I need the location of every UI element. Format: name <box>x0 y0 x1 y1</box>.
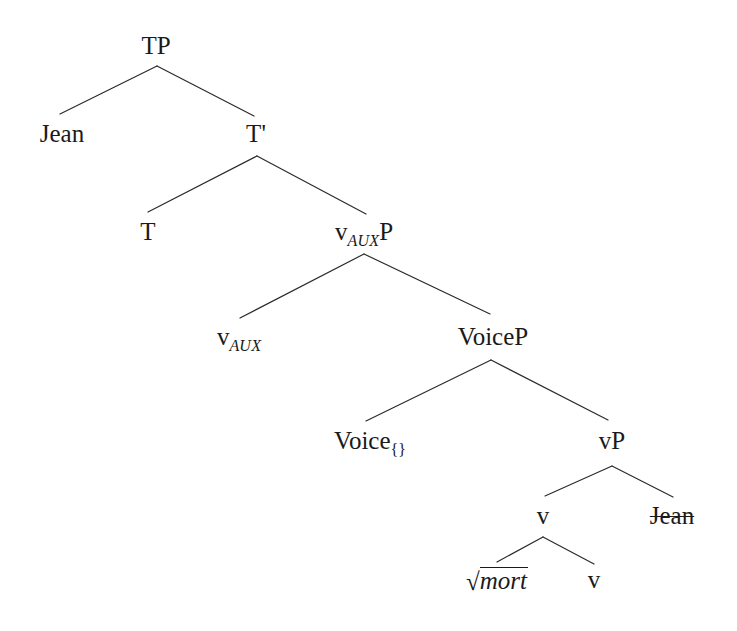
tree-branch <box>60 66 157 114</box>
root-label: mort <box>480 567 528 593</box>
subscript-aux: AUX <box>347 232 379 249</box>
node-tp: TP <box>141 33 170 58</box>
node-vaux: vAUX <box>217 324 261 354</box>
node-jean-subject: Jean <box>40 121 84 146</box>
tree-branch <box>545 466 612 496</box>
node-root-mort: √mort <box>466 567 528 593</box>
tree-branch <box>240 254 364 318</box>
tree-branch <box>148 156 257 212</box>
subscript-aux: AUX <box>229 337 261 354</box>
node-little-vp: vP <box>599 428 625 453</box>
node-little-v-head: v <box>537 503 550 528</box>
tree-branch <box>491 360 608 420</box>
node-t: T <box>140 219 155 244</box>
node-jean-trace: Jean <box>650 503 694 528</box>
radical-icon: √ <box>466 569 480 594</box>
node-vaux-p: vAUXP <box>335 219 393 249</box>
tree-branch <box>157 66 254 116</box>
node-voice-p: VoiceP <box>458 324 528 349</box>
tree-branch <box>497 537 543 562</box>
tree-branch <box>257 156 366 214</box>
radical-group: √mort <box>466 567 528 593</box>
tree-branch <box>612 466 673 497</box>
node-t-bar: T' <box>246 121 266 146</box>
tree-branch <box>366 360 491 421</box>
tree-branch <box>364 254 490 314</box>
tree-edges <box>0 0 737 631</box>
syntax-tree-figure: TP Jean T' T vAUXP vAUX VoiceP Voice{} v… <box>0 0 737 631</box>
tree-branch <box>543 537 594 564</box>
subscript-empty-set: {} <box>391 441 406 458</box>
node-voice-empty: Voice{} <box>334 428 406 458</box>
node-little-v-leaf: v <box>588 567 601 592</box>
